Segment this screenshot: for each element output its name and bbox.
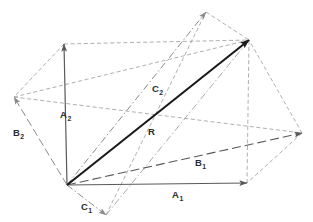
label-c2-base: C xyxy=(152,83,159,94)
label-c2-subscript: 2 xyxy=(159,89,163,96)
label-a2-subscript: 2 xyxy=(68,115,72,122)
label-a1-subscript: 1 xyxy=(180,195,184,202)
label-b2-base: B xyxy=(13,127,20,138)
vector-diagram-figure: A 1 A 2 B 1 B 2 C 1 C 2 xyxy=(0,0,313,222)
label-r-base: R xyxy=(148,126,155,137)
label-a2-base: A xyxy=(60,109,67,120)
label-a1-base: A xyxy=(172,189,179,200)
vector-diagram-canvas: A 1 A 2 B 1 B 2 C 1 C 2 xyxy=(0,0,313,222)
figure-background xyxy=(0,0,313,222)
label-r: R xyxy=(148,126,155,137)
label-b2-subscript: 2 xyxy=(20,133,24,140)
label-b1-base: B xyxy=(195,157,202,168)
label-c1-base: C xyxy=(81,201,88,212)
label-b1-subscript: 1 xyxy=(202,163,206,170)
label-c1-subscript: 1 xyxy=(88,207,92,214)
